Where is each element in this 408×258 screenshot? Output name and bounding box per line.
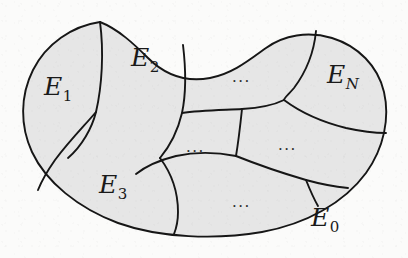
label-base: E bbox=[327, 60, 345, 89]
label-subscript: 0 bbox=[330, 218, 340, 236]
region-label-e3: E3 bbox=[99, 172, 127, 197]
ellipsis-top-middle: ... bbox=[232, 70, 251, 85]
region-label-e2: E2 bbox=[131, 45, 159, 70]
label-subscript: 3 bbox=[118, 185, 128, 203]
region-label-e1: E1 bbox=[44, 74, 72, 99]
label-base: E bbox=[131, 43, 149, 72]
label-base: E bbox=[311, 203, 329, 232]
label-base: E bbox=[99, 170, 117, 199]
partition-diagram-svg bbox=[0, 0, 408, 258]
label-subscript: N bbox=[346, 75, 359, 93]
ellipsis-center-left: ... bbox=[186, 140, 205, 155]
ellipsis-bottom-middle: ... bbox=[232, 195, 251, 210]
figure-container: E1 E2 EN E3 E0 ... ... ... ... bbox=[0, 0, 408, 258]
region-label-e0: E0 bbox=[311, 205, 339, 230]
region-label-en: EN bbox=[327, 62, 358, 87]
ellipsis-center-right: ... bbox=[278, 138, 297, 153]
label-subscript: 2 bbox=[150, 58, 160, 76]
label-base: E bbox=[44, 72, 62, 101]
label-subscript: 1 bbox=[63, 87, 73, 105]
